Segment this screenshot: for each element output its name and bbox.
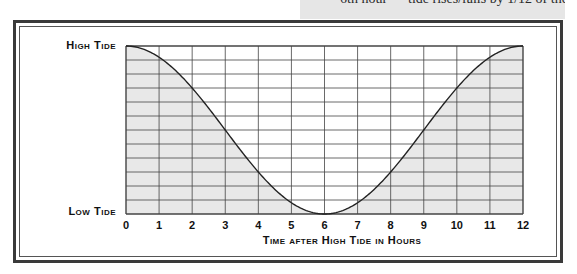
- x-tick-label: 12: [517, 219, 529, 231]
- low-tide-label: Low Tide: [68, 205, 116, 217]
- x-tick-label: 3: [222, 219, 228, 231]
- tide-chart: 0123456789101112 High Tide Low Tide Time…: [0, 0, 577, 274]
- x-tick-label: 10: [451, 219, 463, 231]
- x-tick-label: 7: [355, 219, 361, 231]
- x-tick-label: 5: [288, 219, 294, 231]
- x-tick-label: 2: [189, 219, 195, 231]
- x-tick-label: 0: [123, 219, 129, 231]
- x-tick-label: 9: [421, 219, 427, 231]
- x-tick-label: 6: [321, 219, 327, 231]
- x-tick-labels: 0123456789101112: [123, 219, 529, 231]
- x-tick-label: 1: [156, 219, 162, 231]
- x-axis-title: Time after High Tide in Hours: [263, 234, 422, 246]
- high-tide-label: High Tide: [66, 39, 116, 51]
- x-tick-label: 8: [388, 219, 394, 231]
- x-tick-label: 4: [255, 219, 262, 231]
- x-tick-label: 11: [484, 219, 496, 231]
